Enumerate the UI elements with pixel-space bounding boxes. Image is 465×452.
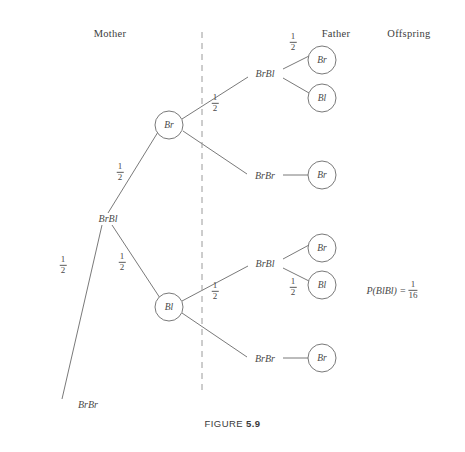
probability-numerator: 1 bbox=[409, 280, 418, 291]
offspring-2-bl: Bl bbox=[318, 93, 326, 103]
offspring-1-br: Br bbox=[317, 55, 327, 65]
probability-fraction: 1 16 bbox=[409, 280, 418, 300]
prob-mother-bl-denominator: 2 bbox=[119, 263, 126, 273]
prob-bl-father-brbl-numerator: 1 bbox=[212, 281, 219, 292]
prob-mother-brbr-denominator: 2 bbox=[60, 266, 67, 276]
genetics-probability-tree-figure: MotherFatherOffspring BrBlBrBlBrBrBrBlBr… bbox=[0, 0, 465, 452]
mother-outcome-brbr: BrBr bbox=[78, 399, 98, 410]
equals-sign: = bbox=[400, 285, 406, 296]
mother-gamete-bl: Bl bbox=[165, 302, 173, 312]
prob-br-father-brbl-numerator: 1 bbox=[212, 93, 219, 104]
prob-mother-bl-numerator: 1 bbox=[119, 252, 126, 263]
column-header-mother: Mother bbox=[94, 28, 127, 39]
father-top-brbl: BrBl bbox=[256, 68, 275, 79]
prob-mother-brbr: 12 bbox=[60, 255, 67, 275]
prob-offspring-bot-bl: 12 bbox=[290, 277, 297, 297]
node-circles-group bbox=[155, 46, 336, 372]
edge-fatherbrbl-to-offspring4 bbox=[283, 245, 309, 259]
prob-offspring-top-br: 12 bbox=[290, 32, 297, 52]
prob-mother-br-denominator: 2 bbox=[117, 173, 124, 183]
probability-expression: P(BlBl) bbox=[366, 285, 397, 296]
prob-br-father-brbl: 12 bbox=[212, 93, 219, 113]
prob-offspring-top-br-numerator: 1 bbox=[290, 32, 297, 43]
mother-genotype: BrBl bbox=[99, 213, 118, 224]
column-header-offspring: Offspring bbox=[387, 28, 430, 39]
offspring-5-bl: Bl bbox=[318, 280, 326, 290]
tree-diagram-canvas bbox=[0, 0, 465, 452]
prob-mother-br-numerator: 1 bbox=[117, 162, 124, 173]
prob-offspring-top-br-denominator: 2 bbox=[290, 43, 297, 53]
prob-mother-brbr-numerator: 1 bbox=[60, 255, 67, 266]
prob-bl-father-brbl-denominator: 2 bbox=[212, 292, 219, 302]
figure-caption: FIGURE 5.9 bbox=[0, 418, 465, 429]
offspring-6-br: Br bbox=[317, 353, 327, 363]
mother-gamete-br: Br bbox=[164, 120, 174, 130]
figure-caption-word: FIGURE bbox=[205, 418, 243, 429]
prob-br-father-brbl-denominator: 2 bbox=[212, 104, 219, 114]
offspring-3-br: Br bbox=[317, 170, 327, 180]
tree-edges-group bbox=[62, 56, 309, 399]
edge-fatherbrbl-to-offspring1 bbox=[283, 56, 309, 69]
edge-br-to-father-brbr bbox=[183, 131, 247, 174]
father-top-brbr: BrBr bbox=[255, 170, 275, 181]
edge-fatherbrbl-to-offspring2 bbox=[283, 78, 309, 93]
figure-caption-number: 5.9 bbox=[246, 418, 260, 429]
prob-mother-bl: 12 bbox=[119, 252, 126, 272]
prob-bl-father-brbl: 12 bbox=[212, 281, 219, 301]
father-bottom-brbr: BrBr bbox=[255, 353, 275, 364]
prob-offspring-bot-bl-denominator: 2 bbox=[290, 288, 297, 298]
prob-offspring-bot-bl-numerator: 1 bbox=[290, 277, 297, 288]
edge-mother-to-brbr bbox=[62, 225, 102, 399]
column-header-father: Father bbox=[322, 28, 351, 39]
offspring-4-br: Br bbox=[317, 243, 327, 253]
prob-mother-br: 12 bbox=[117, 162, 124, 182]
edge-mother-to-br bbox=[108, 132, 158, 213]
father-bottom-brbl: BrBl bbox=[256, 258, 275, 269]
edge-bl-to-father-brbr bbox=[182, 313, 247, 357]
probability-statement: P(BlBl) = 1 16 bbox=[366, 280, 417, 300]
probability-denominator: 16 bbox=[409, 291, 418, 301]
